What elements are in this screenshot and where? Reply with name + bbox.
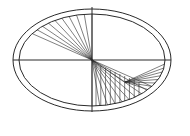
- string-line: [92, 60, 122, 102]
- string-line: [32, 34, 92, 60]
- string-line: [92, 60, 125, 82]
- string-line: [42, 26, 92, 60]
- ellipse-string-art-diagram: [0, 0, 190, 136]
- diagram-canvas: [0, 0, 190, 136]
- string-line: [62, 18, 92, 60]
